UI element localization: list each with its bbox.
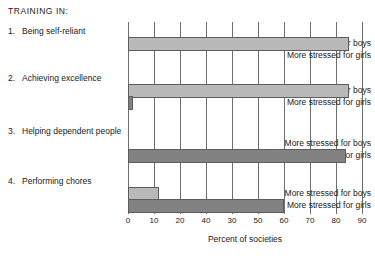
- x-axis-tick-label: 0: [116, 216, 140, 225]
- x-axis-tick-label: 90: [350, 216, 374, 225]
- category-number: 3.: [8, 126, 15, 136]
- category-title: Helping dependent people: [22, 126, 121, 136]
- x-axis-title: Percent of societies: [0, 234, 375, 244]
- series-label-boys: More stressed for boys: [253, 138, 375, 148]
- bar-girls-2: [128, 96, 133, 110]
- category-title: Being self-reliant: [22, 26, 85, 36]
- bar-girls-4: [128, 199, 284, 213]
- bar-chart: TRAINING IN: 0102040305060708090 Percent…: [0, 0, 375, 256]
- x-axis-tick-label: 50: [246, 216, 270, 225]
- x-axis-tick-label: 10: [142, 216, 166, 225]
- series-label-boys: More stressed for boys: [253, 188, 375, 198]
- x-axis-title-text: Percent of societies: [93, 234, 282, 244]
- bar-boys-2: [128, 84, 349, 98]
- series-label-girls: More stressed for girls: [253, 50, 375, 60]
- category-title: Achieving excellence: [22, 73, 101, 83]
- bar-boys-1: [128, 37, 349, 51]
- bar-girls-3: [128, 149, 346, 163]
- x-axis-tick-label: 30: [220, 216, 244, 225]
- x-axis-tick-label: 40: [194, 216, 218, 225]
- x-axis-tick-label: 70: [298, 216, 322, 225]
- chart-heading: TRAINING IN:: [8, 6, 68, 16]
- category-number: 2.: [8, 73, 15, 83]
- x-axis-tick-label: 60: [272, 216, 296, 225]
- x-axis-tick-label: 80: [324, 216, 348, 225]
- series-label-girls: More stressed for girls: [253, 97, 375, 107]
- category-title: Performing chores: [22, 176, 91, 186]
- category-number: 1.: [8, 26, 15, 36]
- x-axis-tick-label: 20: [168, 216, 192, 225]
- category-number: 4.: [8, 176, 15, 186]
